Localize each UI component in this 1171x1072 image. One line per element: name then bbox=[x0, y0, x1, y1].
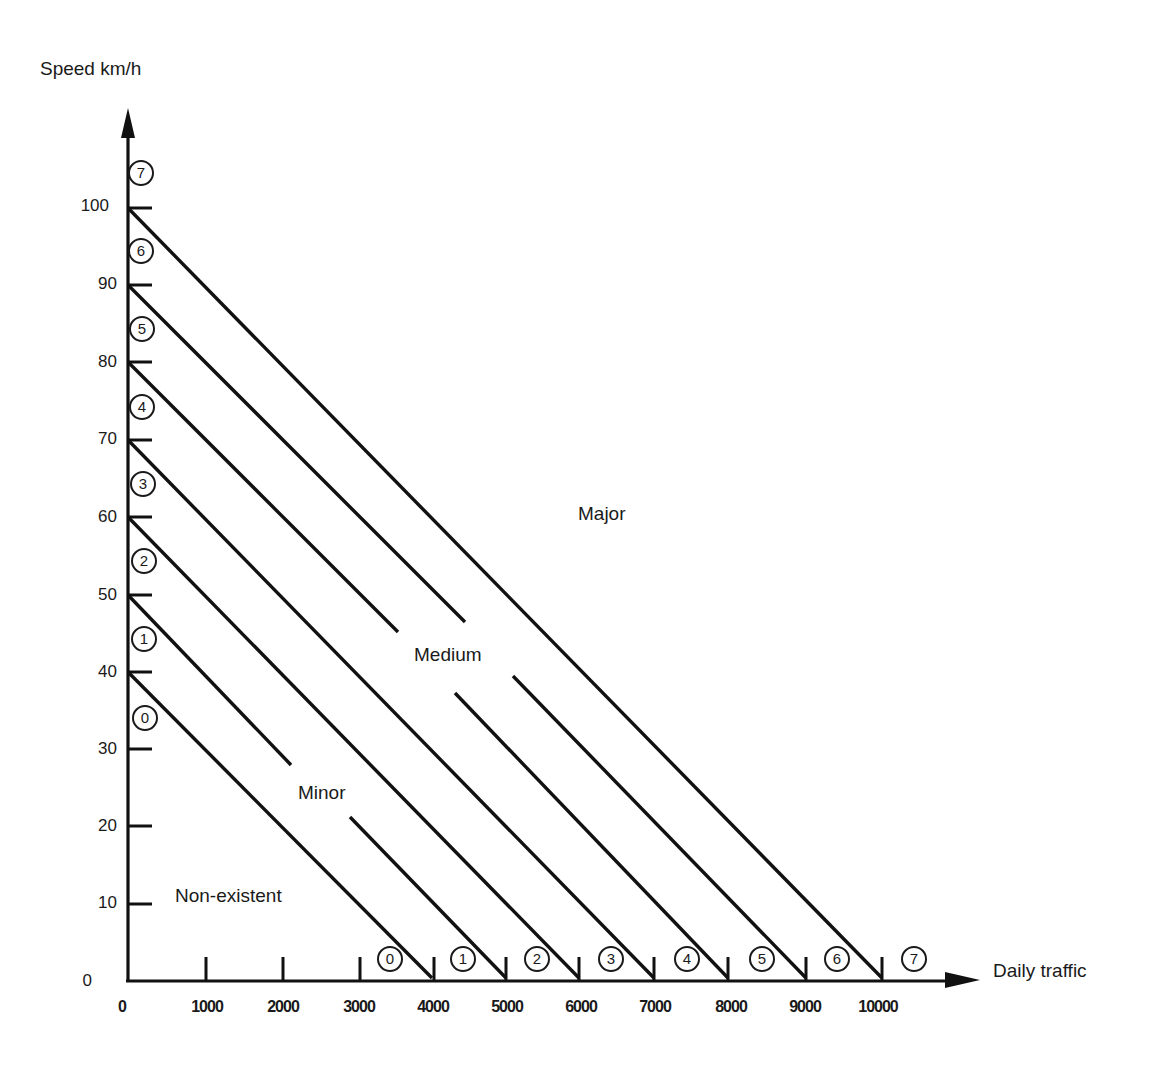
line-zone-4-upper bbox=[128, 362, 398, 632]
y-tick-label: 0 bbox=[52, 971, 92, 991]
region-label-non-existent: Non-existent bbox=[175, 885, 282, 907]
x-tick-label: 8000 bbox=[696, 998, 766, 1016]
y-tick-label: 70 bbox=[77, 429, 117, 449]
line-zone-5-upper bbox=[128, 285, 465, 622]
line-zone-0 bbox=[128, 672, 432, 978]
zone-marker-x-1: 1 bbox=[450, 946, 476, 972]
x-tick-label: 7000 bbox=[620, 998, 690, 1016]
y-tick-label: 40 bbox=[77, 662, 117, 682]
zone-marker-x-6: 6 bbox=[824, 946, 850, 972]
x-tick-label: 6000 bbox=[546, 998, 616, 1016]
line-zone-1-lower bbox=[350, 817, 506, 978]
y-axis-arrow-icon bbox=[121, 108, 135, 138]
x-axis-title: Daily traffic bbox=[993, 960, 1087, 982]
region-label-major: Major bbox=[578, 503, 626, 525]
line-zone-1-upper bbox=[128, 595, 291, 765]
y-tick-label: 50 bbox=[77, 585, 117, 605]
zone-marker-y-0: 0 bbox=[132, 705, 158, 731]
y-tick-label: 10 bbox=[77, 893, 117, 913]
zone-marker-y-5: 5 bbox=[129, 316, 155, 342]
x-tick-label: 2000 bbox=[248, 998, 318, 1016]
zone-marker-y-2: 2 bbox=[131, 548, 157, 574]
y-axis-title: Speed km/h bbox=[40, 58, 141, 80]
zone-marker-y-6: 6 bbox=[128, 238, 154, 264]
x-tick-label: 1000 bbox=[172, 998, 242, 1016]
zone-marker-y-7: 7 bbox=[128, 160, 154, 186]
zone-marker-y-4: 4 bbox=[129, 394, 155, 420]
line-zone-6 bbox=[128, 208, 882, 978]
y-tick-label: 20 bbox=[77, 816, 117, 836]
zone-marker-x-3: 3 bbox=[598, 946, 624, 972]
region-label-medium: Medium bbox=[414, 644, 482, 666]
y-tick-label: 60 bbox=[77, 507, 117, 527]
x-tick-label: 5000 bbox=[472, 998, 542, 1016]
x-tick-label: 3000 bbox=[324, 998, 394, 1016]
zone-marker-y-3: 3 bbox=[130, 471, 156, 497]
line-zone-4-lower bbox=[455, 693, 728, 978]
chart-canvas bbox=[0, 0, 1171, 1072]
x-tick-label: 10000 bbox=[843, 998, 913, 1016]
region-label-minor: Minor bbox=[298, 782, 346, 804]
zone-marker-x-4: 4 bbox=[674, 946, 700, 972]
x-tick-label: 0 bbox=[87, 998, 157, 1016]
zone-marker-y-1: 1 bbox=[131, 626, 157, 652]
zone-marker-x-0: 0 bbox=[377, 946, 403, 972]
zone-marker-x-5: 5 bbox=[749, 946, 775, 972]
zone-marker-x-2: 2 bbox=[524, 946, 550, 972]
x-tick-label: 9000 bbox=[770, 998, 840, 1016]
x-tick-label: 4000 bbox=[398, 998, 468, 1016]
y-tick-label: 30 bbox=[77, 739, 117, 759]
y-tick-label: 100 bbox=[69, 196, 109, 216]
zone-marker-x-7: 7 bbox=[901, 946, 927, 972]
y-tick-label: 90 bbox=[77, 274, 117, 294]
line-zone-5-lower bbox=[513, 676, 806, 978]
y-tick-label: 80 bbox=[77, 352, 117, 372]
x-axis-arrow-icon bbox=[945, 972, 980, 988]
